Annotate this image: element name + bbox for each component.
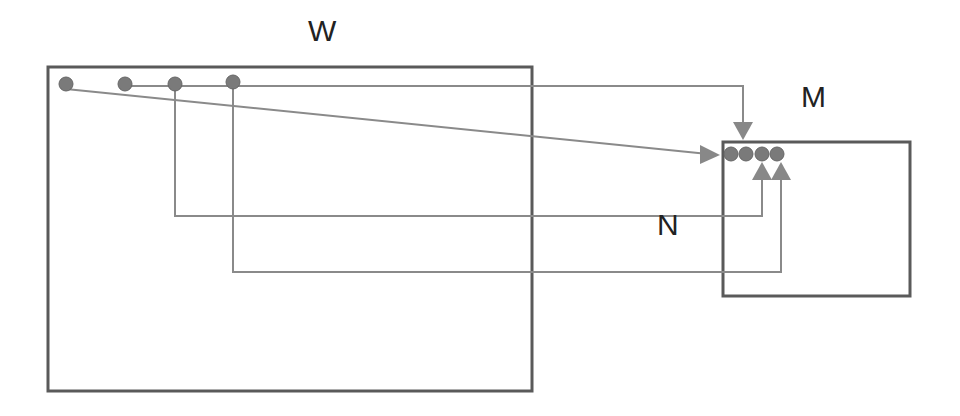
connector-top [125,86,743,128]
source-node-3 [168,77,182,91]
target-node-1 [724,147,738,161]
target-node-3 [755,147,769,161]
source-node-4 [226,75,240,89]
connector-diagonal [66,89,708,154]
arrow-right-icon [700,145,720,164]
arrow-down-icon [733,122,753,140]
source-node-1 [59,77,73,91]
arrow-up-icon [771,162,791,180]
connector-bottom [233,84,781,272]
mapping-diagram [0,0,960,416]
label-n: N [657,208,679,242]
box-w [48,67,532,391]
arrow-up-icon [752,162,772,180]
source-node-2 [118,77,132,91]
label-m: M [801,80,826,114]
target-node-4 [770,147,784,161]
label-w: W [308,14,336,48]
target-node-2 [739,147,753,161]
